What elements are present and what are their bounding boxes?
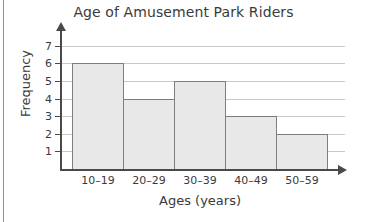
- y-tick-mark-6: [55, 63, 62, 64]
- y-axis-line: [60, 30, 62, 170]
- x-tick-label-50-59: 50–59: [276, 174, 328, 187]
- y-tick-label-3: 3: [36, 111, 52, 122]
- bar-30-39: [174, 81, 226, 170]
- y-tick-mark-7: [55, 46, 62, 47]
- y-axis-title: Frequency: [18, 29, 33, 139]
- x-tick-label-20-29: 20–29: [123, 174, 175, 187]
- y-tick-label-2: 2: [36, 129, 52, 140]
- plot-area: 1 2 3 4 5 6 7 10–19 20–29 30–39 40–49 50…: [0, 0, 367, 222]
- chart-figure: Age of Amusement Park Riders 1 2 3 4: [0, 0, 367, 222]
- y-tick-mark-4: [55, 99, 62, 100]
- y-tick-mark-1: [55, 151, 62, 152]
- bar-40-49: [225, 116, 277, 170]
- y-tick-label-7: 7: [36, 41, 52, 52]
- y-tick-label-4: 4: [36, 94, 52, 105]
- x-axis-title: Ages (years): [60, 193, 340, 208]
- bar-10-19: [72, 63, 124, 170]
- y-tick-mark-5: [55, 81, 62, 82]
- y-tick-label-5: 5: [36, 76, 52, 87]
- x-tick-label-40-49: 40–49: [225, 174, 277, 187]
- x-axis-arrow-icon: [338, 165, 347, 175]
- x-tick-label-30-39: 30–39: [174, 174, 226, 187]
- y-tick-label-1: 1: [36, 146, 52, 157]
- x-axis-line: [60, 169, 340, 171]
- x-tick-label-10-19: 10–19: [72, 174, 124, 187]
- bar-50-59: [276, 134, 328, 170]
- y-tick-mark-3: [55, 116, 62, 117]
- y-tick-label-6: 6: [36, 58, 52, 69]
- gridline-7: [60, 46, 345, 47]
- y-tick-mark-2: [55, 134, 62, 135]
- y-axis-arrow-icon: [56, 22, 66, 31]
- bar-20-29: [123, 99, 175, 170]
